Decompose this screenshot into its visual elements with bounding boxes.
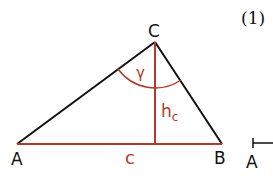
triangle-diagram: C A B c γ hc (1) A (0, 0, 273, 193)
angle-gamma-arc (118, 69, 181, 88)
altitude-hc-label: hc (161, 101, 178, 124)
vertex-c-label: C (148, 21, 160, 41)
vertex-a-label: A (11, 149, 23, 169)
altitude-subscript-c: c (172, 110, 179, 124)
side-b-ac (17, 42, 155, 144)
figure-number: (1) (241, 8, 265, 28)
side-c-label: c (125, 147, 135, 168)
vertex-b-label: B (214, 148, 226, 168)
altitude-h: h (161, 101, 172, 121)
next-figure-vertex-a: A (246, 152, 258, 172)
side-a-bc (155, 42, 222, 144)
angle-gamma-label: γ (136, 64, 145, 82)
